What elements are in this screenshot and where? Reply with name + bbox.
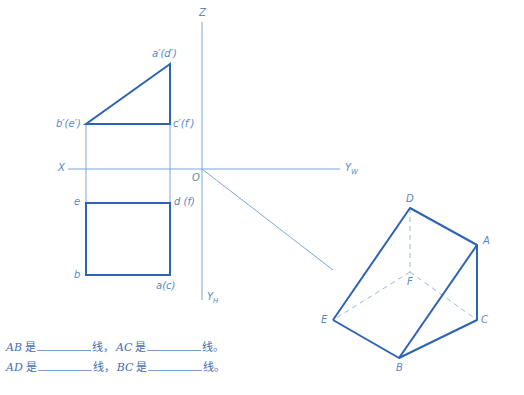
answer-blank-ad[interactable] (38, 360, 92, 371)
prism-hidden-edges (333, 208, 477, 320)
prism-visible-edges (333, 208, 477, 358)
label-b-prime: b′(e′) (56, 119, 81, 129)
label-d: d (f) (174, 197, 195, 207)
x-axis-label: X (58, 163, 65, 173)
label-c-prime: c′(f′) (173, 119, 194, 129)
label-3d-A: A (483, 236, 490, 246)
top-view-rectangle (86, 203, 170, 275)
z-axis-label: Z (199, 8, 206, 18)
label-3d-E: E (321, 315, 327, 325)
question-line-2: AD 是 线， BC 是 线。 (6, 358, 225, 374)
label-3d-C: C (481, 315, 488, 325)
axes (68, 22, 340, 300)
projection-lines (86, 124, 170, 203)
answer-blank-ab[interactable] (37, 340, 91, 351)
label-e: e (74, 197, 80, 207)
label-a: a(c) (156, 281, 175, 291)
label-a-prime: a′(d′) (152, 49, 177, 59)
answer-blank-bc[interactable] (148, 360, 202, 371)
origin-label: O (192, 173, 200, 183)
label-3d-D: D (406, 194, 414, 204)
label-3d-F: F (407, 277, 413, 287)
label-3d-B: B (396, 363, 403, 373)
yw-axis-label: YW (345, 163, 358, 173)
question-line-1: AB 是 线， AC 是 线。 (6, 338, 224, 354)
diagonal-45-line (202, 169, 333, 270)
answer-blank-ac[interactable] (147, 340, 201, 351)
label-b: b (74, 270, 80, 280)
yh-axis-label: YH (207, 292, 218, 302)
front-view-triangle (86, 64, 170, 124)
